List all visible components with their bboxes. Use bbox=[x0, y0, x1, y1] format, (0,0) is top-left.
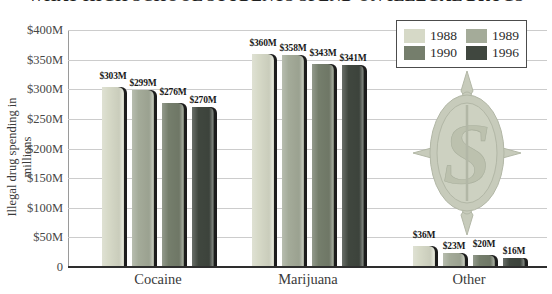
dollar-seal-watermark: S bbox=[413, 71, 521, 235]
legend-label-1996: 1996 bbox=[492, 46, 519, 60]
legend-swatch-1990 bbox=[404, 46, 425, 60]
legend-swatch-1988 bbox=[404, 29, 425, 43]
category-label-cocaine: Cocaine bbox=[134, 271, 182, 288]
bar-value-label-cocaine-1996: $270M bbox=[190, 95, 217, 105]
bar-unit-cocaine-1989: $299M bbox=[132, 90, 154, 267]
y-tick-label-350: $350M bbox=[0, 52, 63, 68]
bar-value-label-other-1989: $23M bbox=[443, 241, 465, 251]
category-label-marijuana: Marijuana bbox=[278, 271, 338, 288]
bar-unit-other-1989: $23M bbox=[443, 253, 465, 267]
chart: WHAT HIGH SCHOOL STUDENTS SPEND ON ILLEG… bbox=[0, 0, 552, 294]
bar-cocaine-1988 bbox=[102, 87, 124, 267]
y-tick-label-400: $400M bbox=[0, 22, 63, 38]
bar-unit-marijuana-1990: $343M bbox=[312, 64, 334, 267]
legend-label-1988: 1988 bbox=[430, 29, 457, 43]
legend-box: 1988198919901996 bbox=[396, 20, 527, 68]
bar-other-1988 bbox=[413, 246, 435, 267]
bar-unit-cocaine-1990: $276M bbox=[162, 103, 184, 267]
bar-unit-marijuana-1989: $358M bbox=[282, 55, 304, 267]
bar-cocaine-1996 bbox=[192, 107, 214, 267]
legend-item-1988: 1988 bbox=[404, 29, 457, 43]
y-tick-label-200: $200M bbox=[0, 141, 63, 157]
bar-unit-other-1988: $36M bbox=[413, 246, 435, 267]
bar-value-label-cocaine-1988: $303M bbox=[100, 71, 127, 81]
bar-unit-marijuana-1996: $341M bbox=[342, 65, 364, 267]
y-tick-label-150: $150M bbox=[0, 170, 63, 186]
bar-value-label-marijuana-1996: $341M bbox=[340, 53, 367, 63]
x-axis-line bbox=[68, 266, 547, 268]
y-tick-label-250: $250M bbox=[0, 111, 63, 127]
category-label-other: Other bbox=[452, 271, 485, 288]
bar-group-cocaine: $303M$299M$276M$270M bbox=[102, 87, 214, 267]
y-tick-label-0: 0 bbox=[0, 259, 63, 275]
bar-value-label-other-1988: $36M bbox=[413, 230, 435, 240]
bar-value-label-marijuana-1989: $358M bbox=[280, 43, 307, 53]
bar-cocaine-1990 bbox=[162, 103, 184, 267]
y-tick-label-50: $50M bbox=[0, 229, 63, 245]
bar-value-label-other-1996: $16M bbox=[503, 246, 525, 256]
legend-item-1996: 1996 bbox=[466, 46, 519, 60]
legend-swatch-1989 bbox=[466, 29, 487, 43]
y-tick-label-100: $100M bbox=[0, 200, 63, 216]
legend-label-1990: 1990 bbox=[430, 46, 457, 60]
bar-value-label-cocaine-1989: $299M bbox=[130, 78, 157, 88]
bar-value-label-marijuana-1990: $343M bbox=[310, 48, 337, 58]
bar-marijuana-1996 bbox=[342, 65, 364, 267]
bar-unit-marijuana-1988: $360M bbox=[252, 54, 274, 267]
bar-value-label-marijuana-1988: $360M bbox=[250, 38, 277, 48]
bar-marijuana-1990 bbox=[312, 64, 334, 267]
chart-title: WHAT HIGH SCHOOL STUDENTS SPEND ON ILLEG… bbox=[0, 0, 552, 5]
bar-unit-cocaine-1996: $270M bbox=[192, 107, 214, 267]
bar-value-label-cocaine-1990: $276M bbox=[160, 87, 187, 97]
legend-swatch-1996 bbox=[466, 46, 487, 60]
y-tick-label-300: $300M bbox=[0, 81, 63, 97]
bar-group-marijuana: $360M$358M$343M$341M bbox=[252, 54, 364, 267]
legend-item-1989: 1989 bbox=[466, 29, 519, 43]
bar-marijuana-1989 bbox=[282, 55, 304, 267]
legend-item-1990: 1990 bbox=[404, 46, 457, 60]
bar-unit-cocaine-1988: $303M bbox=[102, 87, 124, 267]
bar-marijuana-1988 bbox=[252, 54, 274, 267]
bar-cocaine-1989 bbox=[132, 90, 154, 267]
bar-value-label-other-1990: $20M bbox=[473, 239, 495, 249]
bar-other-1989 bbox=[443, 253, 465, 267]
legend-label-1989: 1989 bbox=[492, 29, 519, 43]
bar-group-other: $36M$23M$20M$16M bbox=[413, 246, 525, 267]
